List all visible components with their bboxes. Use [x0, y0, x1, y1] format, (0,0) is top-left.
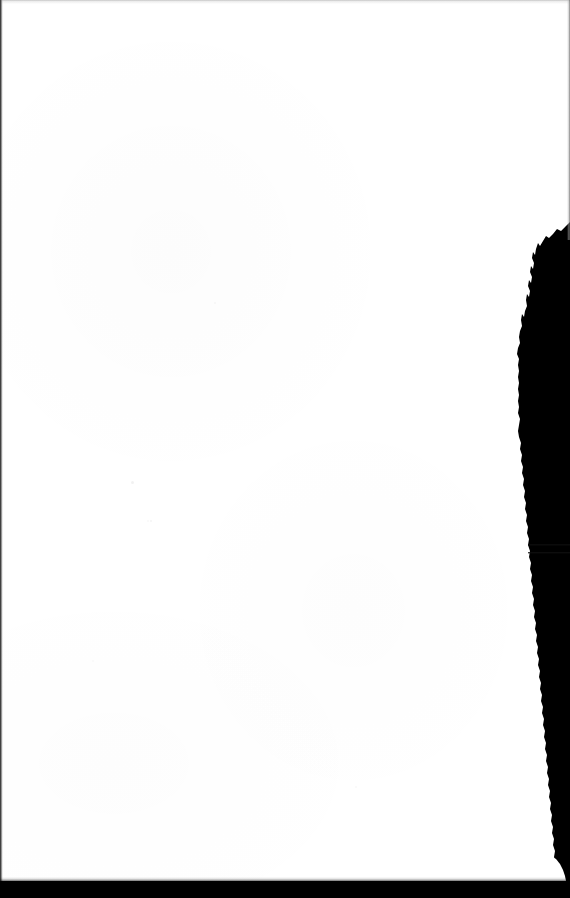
scanned-page-canvas: [0, 0, 570, 898]
page-body-text: [34, 46, 510, 858]
paper-sheet: [0, 0, 570, 898]
